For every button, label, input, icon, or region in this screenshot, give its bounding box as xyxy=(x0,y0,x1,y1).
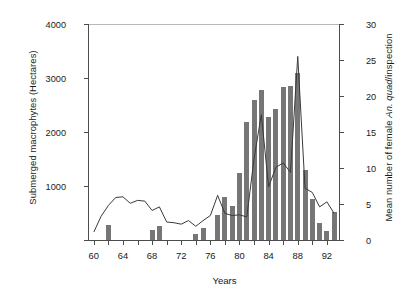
y-tick-label-right-10: 10 xyxy=(366,164,390,174)
x-axis-line xyxy=(88,240,340,241)
plot-area xyxy=(88,24,340,240)
y-axis-left-tick xyxy=(84,240,89,241)
x-tick-label-92: 92 xyxy=(314,250,340,261)
x-tick-label-88: 88 xyxy=(285,250,311,261)
y-tick-label-left-4000: 4000 xyxy=(32,20,66,30)
x-axis-tick xyxy=(138,240,139,245)
mosquito-line-svg xyxy=(88,24,340,240)
x-axis-tick xyxy=(269,240,270,245)
x-axis-tick xyxy=(152,240,153,245)
x-tick-label-64: 64 xyxy=(110,250,136,261)
figure-root: Submerged macrophytes (Hectares) Mean nu… xyxy=(0,0,409,295)
line-series-mosquito xyxy=(88,24,340,240)
x-tick-label-68: 68 xyxy=(139,250,165,261)
y-tick-label-right-30: 30 xyxy=(366,20,390,30)
x-axis-tick xyxy=(298,240,299,245)
x-tick-label-60: 60 xyxy=(81,250,107,261)
x-tick-label-80: 80 xyxy=(226,250,252,261)
x-axis-tick xyxy=(123,240,124,245)
x-tick-label-72: 72 xyxy=(168,250,194,261)
x-axis-tick xyxy=(312,240,313,245)
y-tick-label-right-5: 5 xyxy=(366,200,390,210)
x-axis-tick xyxy=(181,240,182,245)
x-axis-tick xyxy=(167,240,168,245)
x-axis-tick xyxy=(327,240,328,245)
x-axis-tick xyxy=(94,240,95,245)
y-tick-label-right-20: 20 xyxy=(366,92,390,102)
y-tick-label-left-2000: 2000 xyxy=(32,128,66,138)
x-axis-tick xyxy=(108,240,109,245)
y-tick-label-left-1000: 1000 xyxy=(32,182,66,192)
mosquito-line-path xyxy=(94,56,334,232)
x-axis-tick xyxy=(283,240,284,245)
x-axis-tick xyxy=(239,240,240,245)
y-tick-label-left-3000: 3000 xyxy=(32,74,66,84)
x-axis-tick xyxy=(225,240,226,245)
x-axis-tick xyxy=(196,240,197,245)
y-tick-label-right-15: 15 xyxy=(366,128,390,138)
x-axis-tick xyxy=(254,240,255,245)
x-tick-label-84: 84 xyxy=(256,250,282,261)
x-axis-title: Years xyxy=(0,275,409,286)
x-tick-label-76: 76 xyxy=(197,250,223,261)
y-axis-right-tick xyxy=(339,240,344,241)
x-axis-tick xyxy=(210,240,211,245)
y-tick-label-right-0: 0 xyxy=(366,236,390,246)
y-tick-label-right-25: 25 xyxy=(366,56,390,66)
